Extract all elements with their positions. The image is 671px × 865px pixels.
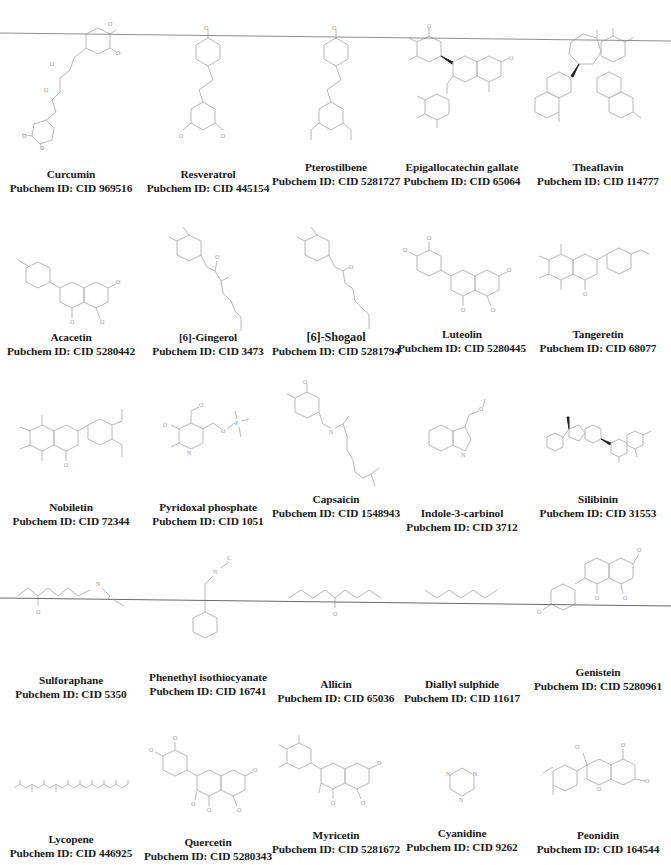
compound-name: Epigallocatechin gallate — [395, 160, 529, 174]
svg-text:O: O — [163, 422, 168, 428]
svg-text:N: N — [459, 797, 464, 803]
svg-text:O: O — [199, 402, 204, 408]
structure-egcg-icon: O O — [395, 20, 529, 150]
svg-text:O: O — [40, 145, 45, 150]
compound-cell-lycopene: Lycopene Pubchem ID: CID 446925 — [4, 710, 138, 865]
structure-theaflavin-icon — [531, 20, 665, 150]
structure-diallyl-sulphide-icon — [395, 560, 529, 670]
compound-label: Quercetin Pubchem ID: CID 5280343 — [141, 835, 275, 863]
compound-pubchem-id: Pubchem ID: CID 1051 — [141, 514, 275, 528]
compound-label: Lycopene Pubchem ID: CID 446925 — [4, 832, 138, 860]
svg-text:O: O — [100, 319, 105, 325]
structure-genistein-icon: O O O O — [531, 540, 665, 670]
svg-text:O: O — [332, 25, 337, 31]
svg-text:O: O — [22, 133, 27, 139]
compound-name: Curcumin — [4, 167, 138, 181]
compound-pubchem-id: Pubchem ID: CID 3473 — [141, 344, 275, 358]
compound-name: Peonidin — [531, 828, 665, 842]
compound-name: Lycopene — [4, 832, 138, 846]
svg-text:O: O — [507, 267, 512, 273]
svg-text:O: O — [179, 133, 184, 139]
compound-pubchem-id: Pubchem ID: CID 5280442 — [4, 344, 138, 358]
svg-text:O: O — [509, 55, 514, 61]
svg-text:O: O — [595, 595, 600, 601]
compound-pubchem-id: Pubchem ID: CID 5350 — [4, 687, 138, 701]
svg-text:N: N — [96, 581, 101, 587]
compound-label: [6]-Shogaol Pubchem ID: CID 5281794 — [269, 330, 403, 358]
compound-label: Silibinin Pubchem ID: CID 31553 — [531, 492, 665, 520]
compound-name: Theaflavin — [531, 160, 665, 174]
svg-text:O: O — [108, 21, 113, 27]
structure-quercetin-icon: O O O O O O — [141, 730, 275, 830]
compound-label: Allicin Pubchem ID: CID 65036 — [269, 677, 403, 705]
compound-pubchem-id: Pubchem ID: CID 5280445 — [395, 341, 529, 355]
compound-cell-egcg: O O Epigallocatechin gallate Pubchem ID:… — [395, 0, 529, 200]
svg-text:O: O — [44, 87, 49, 93]
svg-text:N: N — [473, 771, 478, 777]
compound-cell-shogaol: O [6]-Shogaol Pubchem ID: CID 5281794 — [269, 200, 403, 370]
svg-text:O: O — [204, 25, 209, 31]
compound-label: Peonidin Pubchem ID: CID 164544 — [531, 828, 665, 856]
compound-label: Epigallocatechin gallate Pubchem ID: CID… — [395, 160, 529, 188]
compound-label: Tangeretin Pubchem ID: CID 68077 — [531, 327, 665, 355]
svg-text:O: O — [191, 801, 196, 807]
compound-cell-acacetin: O O O Acacetin Pubchem ID: CID 5280442 — [4, 200, 138, 370]
svg-text:O: O — [237, 807, 242, 813]
svg-text:N: N — [461, 452, 466, 458]
compound-name: [6]-Gingerol — [141, 330, 275, 344]
structure-capsaicin-icon: O N — [269, 370, 403, 505]
compound-cell-phenethyl-isothiocyanate: C N Phenethyl isothiocyanate Pubchem ID:… — [141, 540, 275, 710]
compound-cell-sulforaphane: N C O Sulforaphane Pubchem ID: CID 5350 — [4, 540, 138, 710]
structure-phenethyl-isothiocyanate-icon: C N — [141, 540, 275, 670]
compound-figure: O O O O O O Curcumin Pubchem ID: CID 969… — [0, 0, 671, 865]
structure-luteolin-icon: O O O O O — [395, 220, 529, 340]
compound-pubchem-id: Pubchem ID: CID 11617 — [395, 691, 529, 705]
compound-cell-nobiletin: O Nobiletin Pubchem ID: CID 72344 — [4, 370, 138, 540]
compound-pubchem-id: Pubchem ID: CID 5281672 — [269, 842, 403, 856]
compound-label: Phenethyl isothiocyanate Pubchem ID: CID… — [141, 670, 275, 698]
svg-text:C: C — [227, 555, 231, 561]
compound-pubchem-id: Pubchem ID: CID 5280343 — [141, 849, 275, 863]
structure-lycopene-icon — [4, 730, 138, 830]
compound-name: Pyridoxal phosphate — [141, 500, 275, 514]
structure-pterostilbene-icon: O — [269, 20, 403, 150]
svg-text:O: O — [427, 23, 432, 29]
svg-text:O: O — [621, 742, 626, 748]
svg-text:O: O — [173, 735, 178, 741]
compound-label: Curcumin Pubchem ID: CID 969516 — [4, 167, 138, 195]
compound-name: Quercetin — [141, 835, 275, 849]
svg-text:O: O — [575, 744, 580, 750]
compound-cell-pyridoxal-phosphate: N O O O P Pyridoxal phosphate Pubchem ID… — [141, 370, 275, 540]
compound-pubchem-id: Pubchem ID: CID 3712 — [395, 520, 529, 534]
compound-cell-myricetin: O O O Myricetin Pubchem ID: CID 5281672 — [269, 710, 403, 865]
svg-text:O: O — [461, 307, 466, 313]
compound-name: [6]-Shogaol — [269, 330, 403, 344]
structure-gingerol-icon: O — [141, 205, 275, 340]
compound-name: Acacetin — [4, 330, 138, 344]
svg-text:O: O — [221, 428, 226, 434]
compound-label: Pterostilbene Pubchem ID: CID 5281727 — [269, 160, 403, 188]
compound-label: Indole-3-carbinol Pubchem ID: CID 3712 — [395, 506, 529, 534]
svg-text:O: O — [361, 800, 366, 806]
compound-cell-indole-3-carbinol: N O Indole-3-carbinol Pubchem ID: CID 37… — [395, 370, 529, 540]
compound-cell-genistein: O O O O Genistein Pubchem ID: CID 528096… — [531, 540, 665, 710]
compound-pubchem-id: Pubchem ID: CID 16741 — [141, 684, 275, 698]
structure-sulforaphane-icon: N C O — [4, 560, 138, 670]
svg-text:O: O — [377, 760, 382, 766]
svg-text:O: O — [427, 235, 432, 241]
compound-name: Pterostilbene — [269, 160, 403, 174]
svg-text:O: O — [645, 778, 650, 784]
svg-text:O: O — [331, 800, 336, 806]
svg-text:O: O — [253, 767, 258, 773]
svg-text:O: O — [537, 609, 542, 615]
svg-text:O: O — [221, 133, 226, 139]
compound-name: Allicin — [269, 677, 403, 691]
compound-pubchem-id: Pubchem ID: CID 5280961 — [531, 679, 665, 693]
svg-text:O: O — [403, 247, 408, 253]
compound-cell-gingerol: O [6]-Gingerol Pubchem ID: CID 3473 — [141, 200, 275, 370]
compound-pubchem-id: Pubchem ID: CID 65064 — [395, 174, 529, 188]
compound-label: Sulforaphane Pubchem ID: CID 5350 — [4, 673, 138, 701]
svg-text:O: O — [491, 307, 496, 313]
structure-silibinin-icon — [531, 385, 665, 505]
compound-label: Acacetin Pubchem ID: CID 5280442 — [4, 330, 138, 358]
